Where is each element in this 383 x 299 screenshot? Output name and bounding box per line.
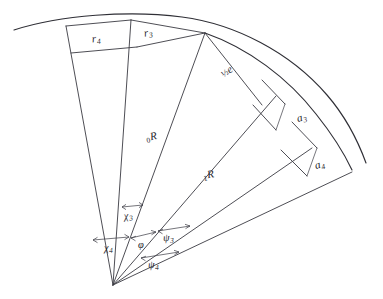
chord-r4-bottom [71,47,137,53]
angle-marker-phi-tick-l2 [131,238,136,241]
label-r3: r3 [144,27,152,40]
radial-line-2 [113,20,131,285]
angle-marker-psi3-tick-r [185,224,190,226]
radial-line-3 [113,33,205,285]
label-phi: φ [138,240,144,251]
label-chi4: χ4 [104,243,113,255]
label-chi3: χ3 [124,211,133,223]
angle-marker-phi-tick-r [151,230,156,232]
angle-marker-chi4 [93,237,129,240]
chord-r4-top [66,20,131,26]
chord-halfe-line [205,33,262,105]
geometric-figure: r4 r3 ½e 0R 1R a3 a4 χ3 χ4 φ ψ3 ψ4 [0,0,383,299]
cell-a3-right [276,104,285,130]
label-psi4: ψ4 [148,260,159,272]
angle-marker-chi4-tick-l2 [93,240,98,243]
radial-line-4 [113,96,276,285]
label-psi3: ψ3 [163,233,174,245]
label-R1: 1R [203,169,214,182]
label-half-e: ½e [221,66,233,77]
angle-marker-psi4-tick-l2 [141,258,146,261]
cell-a3-upper [262,80,285,104]
label-r4: r4 [92,33,100,46]
angle-marker-phi [131,232,156,238]
angle-marker-psi4-tick-r [174,250,179,252]
label-R0: 0R [146,131,157,144]
cell-a4-upper [292,122,317,148]
figure-linework [0,0,383,299]
angle-marker-chi4-tick-r [125,234,130,237]
angle-marker-chi3-tick-l2 [122,207,126,210]
label-a4: a4 [315,159,325,172]
label-a3: a3 [297,112,307,125]
